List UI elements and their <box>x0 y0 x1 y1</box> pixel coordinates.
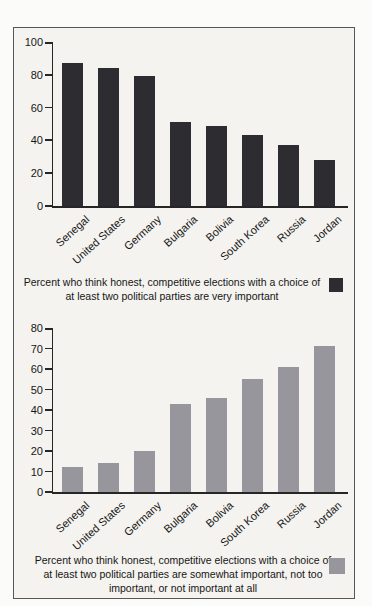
bar-united-states <box>98 68 119 206</box>
plot-area-bottom: 01020304050607080SenegalUnited StatesGer… <box>52 328 348 494</box>
y-axis-tick-label: 0 <box>37 486 43 498</box>
y-axis-tick-label: 40 <box>31 134 43 146</box>
x-axis-label: Jordan <box>311 499 344 530</box>
x-axis-label: Russia <box>275 213 308 244</box>
y-axis-tick <box>45 205 52 207</box>
y-axis-tick-label: 80 <box>31 322 43 334</box>
legend-swatch-dark <box>329 278 343 292</box>
y-axis-tick-label: 60 <box>31 102 43 114</box>
figure-frame: 020406080100SenegalUnited StatesGermanyB… <box>13 27 355 599</box>
y-axis-tick-label: 40 <box>31 404 43 416</box>
y-axis-tick <box>45 430 52 432</box>
y-axis-tick <box>45 491 52 493</box>
y-axis-tick <box>45 42 52 44</box>
plot-area-top: 020406080100SenegalUnited StatesGermanyB… <box>52 42 348 208</box>
bar-jordan <box>314 346 335 492</box>
y-axis-tick-label: 80 <box>31 69 43 81</box>
chart-elections-not-important: 01020304050607080SenegalUnited StatesGer… <box>14 328 354 600</box>
y-axis-tick <box>45 107 52 109</box>
bar-senegal <box>62 467 83 492</box>
x-axis-label: Bolivia <box>203 499 235 530</box>
bar-south-korea <box>242 135 263 206</box>
y-axis-tick <box>45 409 52 411</box>
y-axis-tick-label: 20 <box>31 167 43 179</box>
bar-south-korea <box>242 379 263 492</box>
y-axis-tick-label: 0 <box>37 200 43 212</box>
y-axis-tick <box>45 328 52 330</box>
y-axis-tick <box>45 389 52 391</box>
chart-elections-very-important: 020406080100SenegalUnited StatesGermanyB… <box>14 42 354 328</box>
y-axis-tick-label: 30 <box>31 425 43 437</box>
x-axis-label: Bulgaria <box>162 213 200 249</box>
x-axis-label: Jordan <box>311 213 344 244</box>
y-axis-tick <box>45 139 52 141</box>
bar-germany <box>134 76 155 206</box>
x-axis-label: Russia <box>275 499 308 530</box>
y-axis-tick <box>45 172 52 174</box>
y-axis-tick <box>45 74 52 76</box>
y-axis-tick-label: 20 <box>31 445 43 457</box>
bar-senegal <box>62 63 83 206</box>
y-axis-tick <box>45 348 52 350</box>
bar-bulgaria <box>170 404 191 492</box>
x-axis-label: Bulgaria <box>162 499 200 535</box>
bar-bolivia <box>206 126 227 206</box>
bar-united-states <box>98 463 119 492</box>
bar-bolivia <box>206 398 227 492</box>
x-axis-label: Germany <box>122 499 164 538</box>
bar-germany <box>134 451 155 492</box>
legend-caption-bottom: Percent who think honest, competitive el… <box>30 554 336 596</box>
x-axis-label: Bolivia <box>203 213 235 244</box>
y-axis-tick-label: 10 <box>31 466 43 478</box>
bar-russia <box>278 367 299 492</box>
x-axis-label: Germany <box>122 213 164 252</box>
y-axis-tick <box>45 471 52 473</box>
y-axis-tick-label: 70 <box>31 343 43 355</box>
y-axis-tick <box>45 450 52 452</box>
figure-page: 020406080100SenegalUnited StatesGermanyB… <box>0 0 372 606</box>
y-axis-tick-label: 50 <box>31 384 43 396</box>
bar-bulgaria <box>170 122 191 206</box>
y-axis-tick-label: 60 <box>31 363 43 375</box>
y-axis-tick-label: 100 <box>25 36 43 48</box>
legend-swatch-gray <box>329 558 345 574</box>
bar-russia <box>278 145 299 206</box>
y-axis-tick <box>45 368 52 370</box>
legend-caption-top: Percent who think honest, competitive el… <box>22 276 322 304</box>
bar-jordan <box>314 160 335 206</box>
